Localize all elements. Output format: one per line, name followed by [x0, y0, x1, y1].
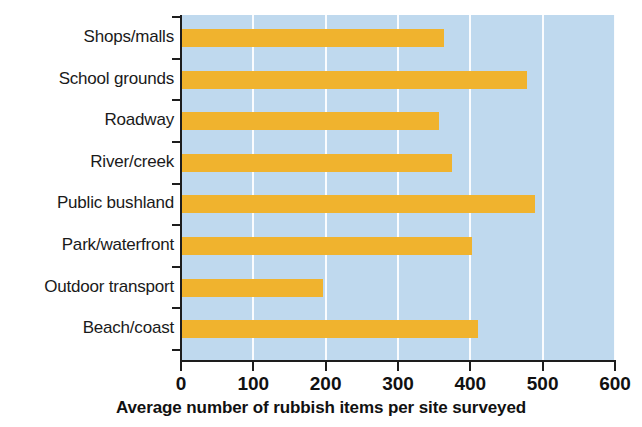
bar-river-creek — [181, 154, 452, 172]
y-axis-tick — [172, 99, 182, 101]
x-axis-tick-label-0: 0 — [151, 373, 211, 395]
x-axis-title: Average number of rubbish items per site… — [0, 398, 642, 418]
x-axis-tick-500 — [542, 360, 544, 371]
x-axis-tick-600 — [614, 360, 616, 371]
x-axis-tick-label-500: 500 — [513, 373, 573, 395]
y-axis-label-park-waterfront: Park/waterfront — [0, 235, 182, 255]
bar-row — [181, 237, 615, 255]
x-axis-tick-400 — [469, 360, 471, 371]
bar-shops-malls — [181, 29, 444, 47]
bar-row — [181, 320, 615, 338]
y-axis-label-roadway: Roadway — [0, 110, 182, 130]
x-axis-tick-label-300: 300 — [368, 373, 428, 395]
y-axis-tick — [172, 141, 182, 143]
gridline-600 — [614, 15, 615, 360]
bar-park-waterfront — [181, 237, 472, 255]
bar-row — [181, 112, 615, 130]
x-axis-tick-200 — [325, 360, 327, 371]
y-axis-label-outdoor-transport: Outdoor transport — [0, 277, 182, 297]
y-axis-tick — [172, 16, 182, 18]
bar-outdoor-transport — [181, 279, 323, 297]
x-axis-tick-label-100: 100 — [223, 373, 283, 395]
y-axis-tick — [172, 58, 182, 60]
y-axis-tick — [172, 183, 182, 185]
y-axis-label-shops-malls: Shops/malls — [0, 27, 182, 47]
bar-public-bushland — [181, 195, 535, 213]
bar-row — [181, 29, 615, 47]
bar-beach-coast — [181, 320, 478, 338]
gridline-200 — [325, 15, 327, 360]
gridline-500 — [542, 15, 544, 360]
bar-row — [181, 279, 615, 297]
bar-row — [181, 195, 615, 213]
plot-area — [181, 15, 615, 360]
y-axis-tick — [172, 224, 182, 226]
x-axis-tick-label-200: 200 — [296, 373, 356, 395]
y-axis-label-school-grounds: School grounds — [0, 69, 182, 89]
x-axis-tick-300 — [397, 360, 399, 371]
bar-row — [181, 154, 615, 172]
gridline-400 — [469, 15, 471, 360]
x-axis-tick-label-400: 400 — [440, 373, 500, 395]
bar-school-grounds — [181, 71, 527, 89]
y-axis-label-beach-coast: Beach/coast — [0, 318, 182, 338]
y-axis-label-river-creek: River/creek — [0, 152, 182, 172]
y-axis-label-public-bushland: Public bushland — [0, 193, 182, 213]
gridline-100 — [252, 15, 254, 360]
gridline-300 — [397, 15, 399, 360]
bar-row — [181, 71, 615, 89]
bar-roadway — [181, 112, 439, 130]
y-axis-tick — [172, 307, 182, 309]
x-axis-tick-100 — [252, 360, 254, 371]
y-axis-tick — [172, 349, 182, 351]
x-axis-tick-0 — [180, 360, 182, 371]
bar-chart: Shops/mallsSchool groundsRoadwayRiver/cr… — [0, 0, 642, 427]
x-axis-tick-label-600: 600 — [585, 373, 642, 395]
y-axis-tick — [172, 266, 182, 268]
